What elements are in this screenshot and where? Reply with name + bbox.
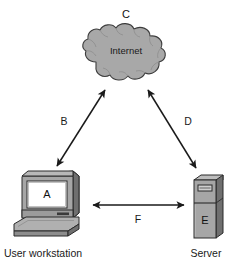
node-letter-a: A [43, 188, 51, 200]
diagram-canvas: Internet C B D [0, 0, 247, 273]
link-letter-b: B [60, 115, 67, 127]
link-letter-f: F [135, 213, 141, 225]
link-b-arrow [57, 90, 105, 166]
node-letter-e: E [201, 214, 208, 226]
node-letter-c: C [122, 8, 130, 20]
network-diagram: Internet C B D [0, 0, 247, 273]
server-tower-icon [194, 175, 223, 238]
cloud-label: Internet [110, 45, 143, 56]
workstation-caption: User workstation [4, 247, 82, 259]
link-d-arrow [148, 90, 196, 168]
link-letter-d: D [184, 115, 192, 127]
server-caption: Server [191, 247, 222, 259]
desktop-computer-icon [14, 171, 79, 236]
